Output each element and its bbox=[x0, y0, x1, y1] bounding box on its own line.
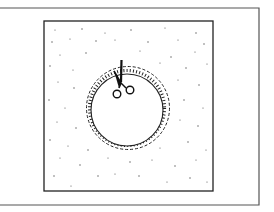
illustration bbox=[0, 0, 274, 212]
cut-circle bbox=[91, 74, 163, 146]
